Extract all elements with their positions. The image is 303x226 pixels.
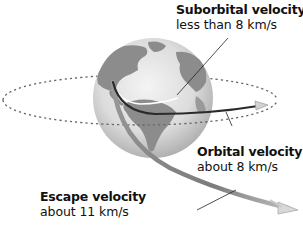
orbital-label: Orbital velocity about 8 km/s [197, 144, 302, 174]
suborbital-title: Suborbital velocity [176, 2, 303, 17]
escape-label: Escape velocity about 11 km/s [40, 189, 146, 219]
orbital-arrowhead-icon [255, 101, 268, 110]
orbital-value: about 8 km/s [197, 159, 302, 174]
orbital-title: Orbital velocity [197, 144, 302, 159]
escape-title: Escape velocity [40, 189, 146, 204]
suborbital-label: Suborbital velocity less than 8 km/s [176, 2, 303, 32]
velocity-diagram: Suborbital velocity less than 8 km/s Orb… [0, 0, 303, 226]
earth-globe-icon [93, 38, 213, 158]
escape-value: about 11 km/s [40, 204, 146, 219]
suborbital-value: less than 8 km/s [176, 17, 303, 32]
escape-leader-line [197, 190, 236, 210]
escape-arrowhead-icon [270, 200, 298, 214]
